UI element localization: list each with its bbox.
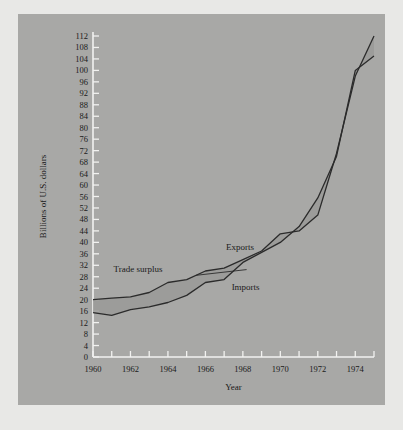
y-tick-label: 60 [80, 180, 89, 190]
y-tick-label: 56 [80, 192, 89, 202]
imports-line [93, 56, 374, 315]
imports-label: Imports [232, 282, 260, 292]
y-tick-label: 16 [80, 306, 89, 316]
y-tick-label: 8 [84, 329, 88, 339]
y-tick-label: 104 [75, 54, 89, 64]
y-tick-label: 4 [84, 341, 89, 351]
y-tick-label: 80 [80, 123, 89, 133]
x-axis-title: Year [225, 382, 242, 392]
trade-surplus-label: Trade surplus [114, 264, 163, 274]
x-tick-label: 1966 [197, 364, 214, 374]
x-tick-label: 1974 [347, 364, 365, 374]
y-tick-label: 68 [80, 157, 89, 167]
y-tick-label: 88 [80, 100, 89, 110]
trade-line-chart: 0481216202428323640444852566064687276808… [18, 14, 385, 405]
y-tick-label: 36 [80, 249, 89, 259]
y-tick-label: 112 [76, 31, 88, 41]
y-axis-tick-labels: 0481216202428323640444852566064687276808… [75, 31, 89, 362]
y-tick-label: 12 [80, 318, 89, 328]
y-axis-title: Billions of U.S. dollars [38, 154, 48, 238]
y-tick-label: 32 [80, 260, 89, 270]
x-tick-label: 1972 [309, 364, 326, 374]
x-tick-label: 1962 [122, 364, 139, 374]
x-tick-label: 1964 [159, 364, 177, 374]
y-tick-label: 84 [80, 111, 89, 121]
x-tick-label: 1970 [272, 364, 289, 374]
y-tick-label: 28 [80, 272, 89, 282]
y-tick-label: 72 [80, 146, 89, 156]
y-tick-label: 40 [80, 237, 89, 247]
exports-label: Exports [226, 242, 254, 252]
y-tick-label: 0 [84, 352, 88, 362]
y-tick-label: 108 [75, 42, 88, 52]
y-tick-label: 92 [80, 88, 89, 98]
y-tick-label: 100 [75, 65, 88, 75]
y-tick-label: 44 [80, 226, 89, 236]
x-axis-tick-group [93, 351, 374, 357]
y-tick-label: 64 [80, 169, 89, 179]
y-tick-label: 76 [80, 134, 89, 144]
y-tick-label: 24 [80, 283, 89, 293]
y-tick-label: 20 [80, 295, 89, 305]
y-tick-label: 96 [80, 77, 89, 87]
y-tick-label: 48 [80, 214, 89, 224]
y-tick-label: 52 [80, 203, 89, 213]
x-tick-label: 1968 [234, 364, 251, 374]
chart-figure-panel: 0481216202428323640444852566064687276808… [18, 14, 385, 405]
x-tick-label: 1960 [85, 364, 102, 374]
x-axis-tick-labels: 19601962196419661968197019721974 [85, 364, 365, 374]
